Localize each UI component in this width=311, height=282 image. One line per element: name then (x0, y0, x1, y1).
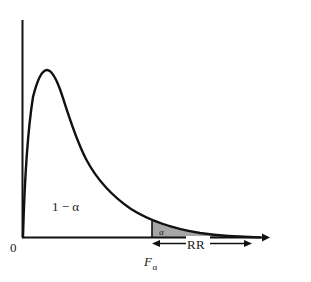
acceptance-region-label: 1 − α (52, 199, 79, 214)
f-distribution-figure: 0 1 − α α RR Fα (0, 0, 311, 282)
tail-area-label: α (159, 227, 164, 237)
critical-value-subscript: α (152, 262, 157, 272)
origin-label: 0 (10, 240, 17, 255)
distribution-chart-svg: 0 1 − α α RR Fα (0, 0, 311, 282)
rejection-region-label: RR (187, 237, 205, 252)
